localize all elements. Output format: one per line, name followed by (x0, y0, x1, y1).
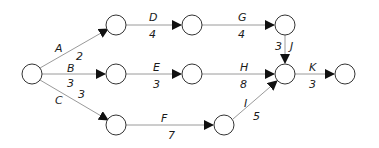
label-c-name: C (55, 94, 63, 107)
node-1 (106, 15, 126, 35)
label-a-name: A (54, 42, 63, 55)
node-6 (214, 115, 234, 135)
label-h-name: H (240, 61, 248, 74)
node-start (22, 64, 42, 84)
label-i-duration: 5 (253, 110, 260, 123)
node-8 (275, 64, 295, 84)
node-3 (106, 115, 126, 135)
label-b-name: B (67, 62, 75, 75)
activity-network-diagram: A 2 B 3 C 3 D 4 E 3 F 7 G 4 H 8 I 5 3 J … (0, 0, 379, 148)
label-k-name: K (309, 61, 317, 74)
label-d-duration: 4 (149, 28, 156, 41)
label-j-duration: 3 (275, 40, 282, 53)
node-2 (106, 64, 126, 84)
label-j-name: J (288, 40, 293, 53)
label-c-duration: 3 (78, 88, 85, 101)
label-g-duration: 4 (238, 28, 245, 41)
node-end (335, 64, 355, 84)
node-7 (275, 15, 295, 35)
node-4 (182, 15, 202, 35)
label-k-duration: 3 (309, 78, 316, 91)
label-g-name: G (238, 11, 247, 24)
label-a-duration: 2 (76, 50, 83, 63)
label-e-name: E (153, 61, 160, 74)
label-d-name: D (149, 11, 157, 24)
label-f-name: F (161, 112, 168, 125)
label-e-duration: 3 (153, 78, 160, 91)
label-i-name: I (244, 97, 247, 110)
label-h-duration: 8 (240, 78, 247, 91)
edge-c (40, 80, 108, 120)
node-5 (182, 64, 202, 84)
label-b-duration: 3 (67, 77, 74, 90)
label-f-duration: 7 (168, 129, 175, 142)
